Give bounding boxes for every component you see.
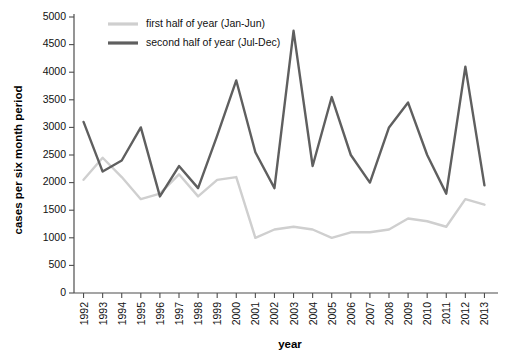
x-tick-label: 2006 [345, 302, 357, 326]
y-tick-label: 2000 [43, 175, 67, 187]
x-tick-label: 2007 [364, 302, 376, 326]
x-tick-label: 1996 [154, 302, 166, 326]
x-tick-label: 1992 [78, 302, 90, 326]
x-tick-label: 1998 [192, 302, 204, 326]
line-chart: 0500100015002000250030003500400045005000… [0, 0, 513, 353]
x-tick-label: 2005 [326, 302, 338, 326]
y-tick-label: 3000 [43, 120, 67, 132]
x-tick-label: 1993 [97, 302, 109, 326]
y-tick-label: 1500 [43, 203, 67, 215]
chart-container: 0500100015002000250030003500400045005000… [0, 0, 513, 353]
legend-label: second half of year (Jul-Dec) [146, 36, 280, 48]
x-tick-label: 1999 [211, 302, 223, 326]
y-axis: 0500100015002000250030003500400045005000 [43, 10, 74, 298]
x-tick-label: 1995 [135, 302, 147, 326]
x-tick-label: 2002 [268, 302, 280, 326]
y-axis-title: cases per six month period [12, 86, 24, 235]
y-tick-label: 1000 [43, 231, 67, 243]
chart-legend: first half of year (Jan-Jun)second half … [108, 17, 280, 48]
y-tick-label: 4500 [43, 37, 67, 49]
x-tick-label: 2000 [230, 302, 242, 326]
y-tick-label: 5000 [43, 10, 67, 22]
x-tick-label: 2012 [459, 302, 471, 326]
x-tick-label: 2008 [383, 302, 395, 326]
y-tick-label: 4000 [43, 65, 67, 77]
y-tick-label: 2500 [43, 148, 67, 160]
y-tick-label: 0 [60, 286, 66, 298]
y-tick-label: 500 [48, 258, 66, 270]
x-axis: 1992199319941995199619971998199920002001… [74, 293, 498, 325]
x-tick-label: 2010 [421, 302, 433, 326]
x-tick-label: 2003 [288, 302, 300, 326]
x-tick-label: 2009 [402, 302, 414, 326]
x-tick-label: 1997 [173, 302, 185, 326]
x-tick-label: 1994 [116, 302, 128, 326]
x-tick-label: 2011 [440, 302, 452, 325]
series-line-second-half [84, 31, 485, 197]
x-tick-label: 2013 [478, 302, 490, 326]
x-axis-title: year [278, 338, 302, 350]
x-tick-label: 2004 [307, 302, 319, 326]
legend-label: first half of year (Jan-Jun) [146, 17, 265, 29]
series-line-first-half [84, 158, 485, 238]
y-tick-label: 3500 [43, 93, 67, 105]
x-tick-label: 2001 [249, 302, 261, 326]
series-lines [84, 31, 485, 238]
